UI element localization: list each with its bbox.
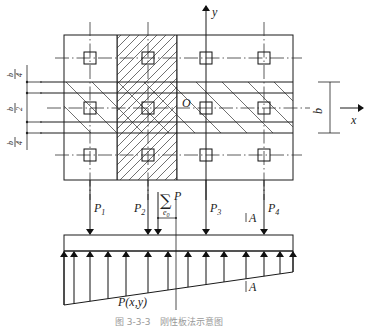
hatch-line: [48, 30, 198, 180]
dim-b-right: b: [311, 108, 325, 114]
origin-label: O: [182, 96, 191, 110]
dim-b2-den: 2: [15, 107, 24, 111]
load-p3-label: P3: [209, 201, 221, 217]
load-p4-label: P4: [267, 201, 279, 217]
hatch-line: [156, 30, 306, 180]
hatch-line: [248, 82, 299, 133]
dim-b2-num: b: [6, 107, 15, 111]
section-label-top: A: [248, 211, 257, 225]
beam: [64, 235, 293, 251]
hatch-line: [3, 30, 153, 180]
dim-b4-top-den: 4: [15, 73, 24, 77]
right-dimension: b: [311, 82, 340, 133]
plate-outline: [64, 35, 293, 180]
pressure-label: P(x,y): [117, 295, 147, 309]
hatch-line: [222, 82, 273, 133]
hatch-line: [174, 30, 324, 180]
horizontal-band-hatch: [40, 82, 351, 133]
left-dimension: b 4 b 2 b 4: [6, 65, 42, 150]
rigid-plate-diagram: y O b 4 b 2 b 4: [0, 0, 365, 328]
resultant-label: P: [173, 189, 182, 203]
hatch-line: [118, 82, 169, 133]
load-p1-label: P1: [93, 201, 105, 217]
hatch-line: [170, 82, 221, 133]
hatch-line: [0, 30, 117, 180]
dim-b4-bottom-num: b: [6, 141, 15, 145]
hatch-line: [30, 30, 180, 180]
hatch-line: [66, 82, 117, 133]
figure-caption: 图 3-3-3 刚性板法示意图: [115, 316, 223, 327]
hatch-line: [0, 30, 126, 180]
load-p2-label: P2: [133, 201, 145, 217]
hatch-line: [93, 30, 243, 180]
reaction-arrows: [64, 252, 293, 305]
hatch-line: [274, 82, 325, 133]
x-axis-label: x: [350, 113, 357, 127]
hatch-line: [40, 82, 91, 133]
hatch-line: [196, 82, 247, 133]
hatch-line: [39, 30, 189, 180]
pressure-diagram: [64, 251, 293, 305]
dim-b4-top-num: b: [6, 73, 15, 77]
grid-axes: [47, 22, 310, 200]
hatch-line: [147, 30, 297, 180]
dim-b4-bottom-den: 4: [15, 141, 24, 145]
vertical-strip-hatch: [0, 30, 342, 180]
y-axis-label: y: [211, 5, 218, 19]
hatch-line: [0, 30, 144, 180]
section-label-bottom: A: [248, 280, 257, 294]
